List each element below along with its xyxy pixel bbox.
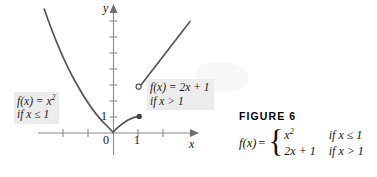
piecewise-condition: if x > 1 bbox=[316, 143, 364, 159]
closed-endpoint-marker bbox=[137, 114, 142, 119]
parabola-annotation: f(x) = x2 if x ≤ 1 bbox=[14, 92, 59, 124]
open-endpoint-marker bbox=[136, 84, 141, 89]
function-name: f(x) bbox=[239, 136, 256, 151]
y-axis-arrow bbox=[110, 4, 118, 13]
figure-caption: FIGURE 6 f(x) = { x2 if x ≤ 1 2x + 1 if … bbox=[239, 110, 377, 159]
piecewise-row: 2x + 1 if x > 1 bbox=[284, 143, 364, 159]
figure-page: y x 0 1 1 f(x) = x2 if x ≤ 1 f(x) = 2x +… bbox=[0, 0, 377, 177]
piecewise-condition: if x ≤ 1 bbox=[316, 127, 364, 143]
y-axis-label: y bbox=[103, 1, 108, 16]
linear-segment bbox=[140, 22, 190, 87]
linear-annotation-line2: if x > 1 bbox=[150, 95, 210, 109]
left-brace: { bbox=[268, 129, 283, 156]
piecewise-rows: x2 if x ≤ 1 2x + 1 if x > 1 bbox=[284, 127, 364, 159]
parabola-annotation-line2: if x ≤ 1 bbox=[17, 108, 55, 122]
piecewise-definition: f(x) = { x2 if x ≤ 1 2x + 1 if x > 1 bbox=[239, 127, 377, 159]
figure-title: FIGURE 6 bbox=[239, 110, 377, 122]
equals-sign: = bbox=[258, 136, 265, 151]
linear-annotation: f(x) = 2x + 1 if x > 1 bbox=[147, 79, 214, 110]
x-tick-label-1: 1 bbox=[134, 133, 140, 148]
origin-tick-label: 0 bbox=[103, 133, 109, 148]
y-tick-label-1: 1 bbox=[101, 109, 107, 124]
linear-annotation-line1: f(x) = 2x + 1 bbox=[150, 81, 210, 95]
piecewise-row: x2 if x ≤ 1 bbox=[284, 127, 364, 143]
x-axis-label: x bbox=[189, 137, 194, 152]
parabola-annotation-line1: f(x) = x2 bbox=[17, 94, 55, 108]
piecewise-expression: 2x + 1 bbox=[284, 143, 315, 159]
piecewise-expression: x2 bbox=[284, 127, 315, 143]
x-axis-arrow bbox=[190, 129, 199, 137]
